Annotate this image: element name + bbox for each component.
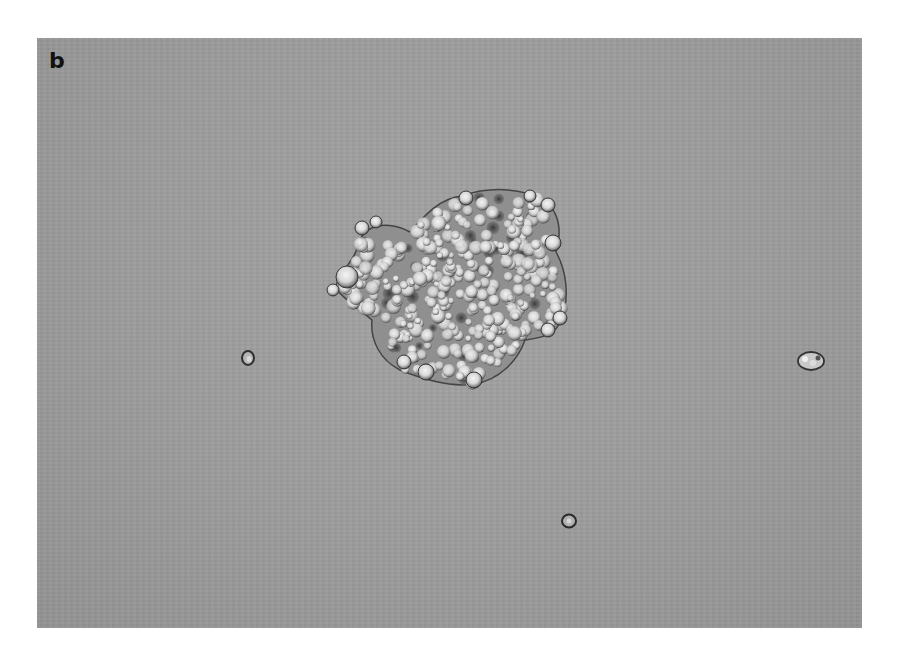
panel-label: b (49, 50, 65, 72)
single-cell-2 (798, 352, 824, 370)
cells-layer (37, 38, 862, 628)
single-cell-3 (562, 515, 576, 528)
single-cell-1 (242, 351, 254, 365)
cell-cluster (327, 190, 568, 390)
micrograph-panel: b (37, 38, 862, 628)
